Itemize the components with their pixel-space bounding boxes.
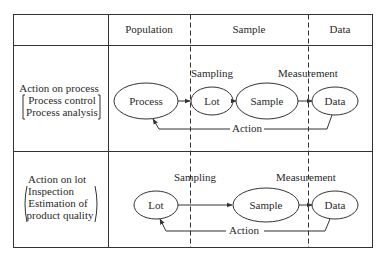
- node-lot-label: Lot: [204, 95, 219, 107]
- row2-label-sampling: Sampling: [174, 171, 217, 183]
- row1-sub-1: Process control: [28, 94, 96, 106]
- node-data-label: Data: [325, 95, 346, 107]
- header-data: Data: [330, 23, 351, 35]
- row2-description: Action on lot Inspection Estimation of p…: [25, 173, 97, 222]
- row1-sub-2: Process analysis: [26, 106, 98, 118]
- node-sample-label: Sample: [251, 95, 284, 107]
- header-population: Population: [125, 23, 173, 35]
- row2-sub-1: Inspection: [28, 185, 74, 197]
- node-lot-2-label: Lot: [148, 199, 163, 211]
- diagram-canvas: Population Sample Data Action on process…: [0, 0, 386, 261]
- row2-title: Action on lot: [28, 173, 86, 185]
- paren-right-icon: [95, 186, 97, 222]
- row1-label-sampling: Sampling: [191, 67, 234, 79]
- row1-label-measurement: Measurement: [278, 67, 338, 79]
- row1-label-action: Action: [232, 122, 262, 134]
- row1-description: Action on process Process control Proces…: [19, 82, 100, 119]
- row2-sub-2: Estimation of: [28, 197, 88, 209]
- row1-title: Action on process: [19, 82, 98, 94]
- node-sample-2-label: Sample: [250, 199, 283, 211]
- row2-sub-3: product quality: [27, 209, 94, 221]
- bracket-left-icon: [23, 95, 25, 119]
- row2-label-measurement: Measurement: [276, 171, 336, 183]
- row2-label-action: Action: [229, 224, 259, 236]
- node-data-2-label: Data: [325, 199, 346, 211]
- bracket-right-icon: [98, 95, 100, 119]
- node-process-label: Process: [129, 95, 163, 107]
- header-sample: Sample: [233, 23, 266, 35]
